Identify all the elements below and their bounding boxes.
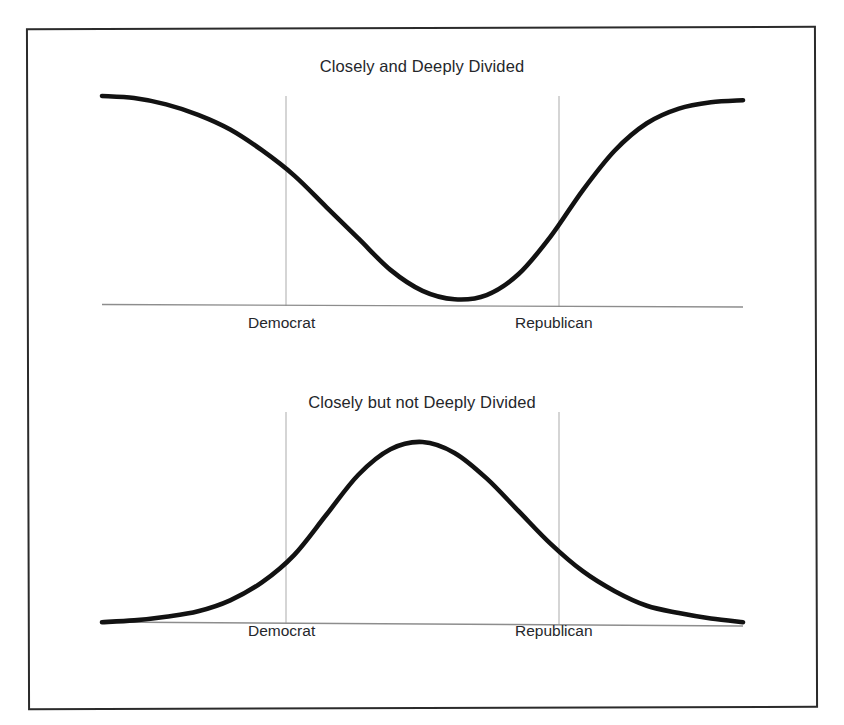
figure-area: Closely and Deeply Divided Democrat Repu… [0, 0, 844, 725]
x-axis-labels-top: Democrat Republican [0, 314, 844, 338]
figure-page: Closely and Deeply Divided Democrat Repu… [0, 0, 844, 725]
curve-bimodal-distribution [102, 96, 743, 299]
x-tick-label-democrat-top: Democrat [248, 314, 315, 332]
x-tick-label-republican-top: Republican [515, 314, 593, 332]
chart-closely-and-deeply-divided: Closely and Deeply Divided Democrat Repu… [0, 46, 844, 346]
curve-unimodal-distribution [102, 442, 743, 622]
plot-area-top [0, 46, 844, 346]
chart-closely-but-not-deeply-divided: Closely but not Deeply Divided Democrat … [0, 382, 844, 672]
plot-svg-top [0, 46, 844, 346]
x-axis-top [102, 305, 743, 308]
x-tick-label-republican-bottom: Republican [515, 622, 593, 640]
x-tick-label-democrat-bottom: Democrat [248, 622, 315, 640]
x-axis-labels-bottom: Democrat Republican [0, 622, 844, 646]
